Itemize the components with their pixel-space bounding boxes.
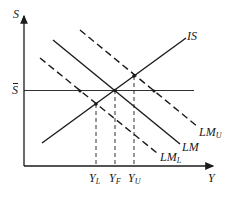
lm-l-label: LML (160, 151, 181, 165)
x-axis-label: Y (208, 172, 215, 184)
tick-label-yl: YL (89, 172, 100, 186)
tick-label-yf: YF (109, 172, 121, 186)
is-label: IS (187, 30, 197, 42)
point-is-lm-l (94, 102, 98, 106)
lm-u-label: LMU (199, 126, 221, 140)
s-bar-label: S (12, 84, 18, 96)
point-is-lm-u (132, 74, 136, 78)
is-lm-diagram (0, 0, 235, 199)
y-axis-label: S (13, 8, 19, 20)
point-is-lm (113, 89, 117, 93)
tick-label-yu: YU (128, 172, 140, 186)
point-lm-l-sbar (78, 89, 81, 92)
lm-u-curve (80, 30, 198, 127)
point-lm-u-sbar (152, 89, 155, 92)
lm-label: LM (182, 141, 199, 153)
